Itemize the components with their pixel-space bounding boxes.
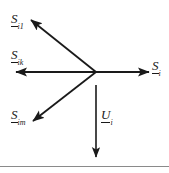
vector-label-s-i: Si xyxy=(152,57,161,76)
vector-subscript-s-ik: ik xyxy=(18,59,24,67)
vector-subscript-s-i: i xyxy=(159,70,161,78)
vector-label-s-i1: Si1 xyxy=(11,10,24,29)
vector-label-u-i: Ui xyxy=(101,106,113,125)
vector-subscript-u-i: i xyxy=(110,119,112,127)
vector-symbol-u-i: U xyxy=(101,108,110,123)
vector-subscript-s-im: im xyxy=(18,119,26,127)
vector-diagram-canvas xyxy=(0,0,169,173)
vector-arrow-s-i1 xyxy=(31,20,96,72)
vector-label-s-im: Sim xyxy=(11,106,26,125)
vector-arrow-s-im xyxy=(33,72,96,121)
bottom-divider-rule xyxy=(0,166,169,167)
phasor-diagram-figure: Si1 Sik Sim Si Ui xyxy=(0,0,169,173)
vector-subscript-s-i1: i1 xyxy=(18,23,24,31)
vector-label-s-ik: Sik xyxy=(11,46,23,65)
vector-arrow-group xyxy=(16,20,149,157)
